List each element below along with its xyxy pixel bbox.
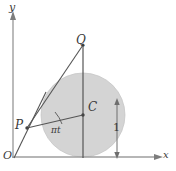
radius-dimension-label: 1	[113, 122, 120, 133]
origin-label: O	[3, 150, 12, 161]
angle-label: πt	[51, 126, 61, 135]
x-axis-arrowhead	[154, 154, 163, 160]
figure-canvas: y x O Q C P πt 1	[0, 0, 176, 171]
point-label-q: Q	[76, 34, 86, 46]
point-label-c: C	[88, 101, 97, 113]
y-axis-label: y	[9, 2, 15, 13]
point-marker-c	[81, 113, 84, 116]
dimension-arrowhead-bottom	[114, 152, 119, 159]
geometry-figure	[0, 0, 176, 171]
x-axis-label: x	[163, 150, 169, 160]
point-marker-p	[25, 126, 28, 129]
point-label-p: P	[15, 119, 23, 131]
